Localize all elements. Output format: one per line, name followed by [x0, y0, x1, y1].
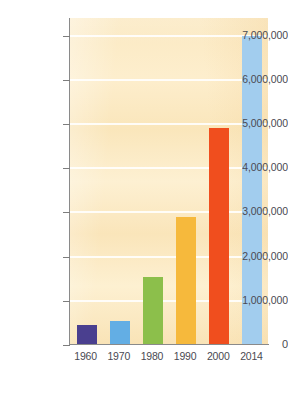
bar-1990 — [176, 217, 196, 345]
bar-2000 — [209, 128, 229, 345]
bar-1960 — [77, 325, 97, 345]
y-axis-tick-label: 0 — [230, 338, 288, 350]
bar-1980 — [143, 277, 163, 345]
y-axis-tick — [63, 80, 70, 81]
bar-1970 — [110, 321, 130, 345]
y-axis-tick — [63, 345, 70, 346]
x-axis-tick-label: 2000 — [201, 350, 235, 362]
x-axis-tick-label: 1960 — [69, 350, 103, 362]
x-axis-tick-label: 1970 — [102, 350, 136, 362]
y-axis-tick-label: 6,000,000 — [230, 73, 288, 85]
x-axis-tick-label: 1990 — [168, 350, 202, 362]
y-axis-tick-label: 2,000,000 — [230, 250, 288, 262]
y-axis-tick-label: 1,000,000 — [230, 294, 288, 306]
y-axis-tick-label: 4,000,000 — [230, 161, 288, 173]
y-axis-tick — [63, 124, 70, 125]
y-axis-tick — [63, 257, 70, 258]
y-axis-tick — [63, 212, 70, 213]
x-axis-tick-label: 2014 — [234, 350, 268, 362]
y-axis-tick — [63, 301, 70, 302]
y-axis-tick-label: 5,000,000 — [230, 117, 288, 129]
x-axis-tick-label: 1980 — [135, 350, 169, 362]
y-axis-tick-label: 3,000,000 — [230, 205, 288, 217]
y-axis-tick-label: 7,000,000 — [230, 29, 288, 41]
bar-chart: 01,000,0002,000,0003,000,0004,000,0005,0… — [0, 0, 288, 395]
y-axis-tick — [63, 168, 70, 169]
y-axis-tick — [63, 36, 70, 37]
